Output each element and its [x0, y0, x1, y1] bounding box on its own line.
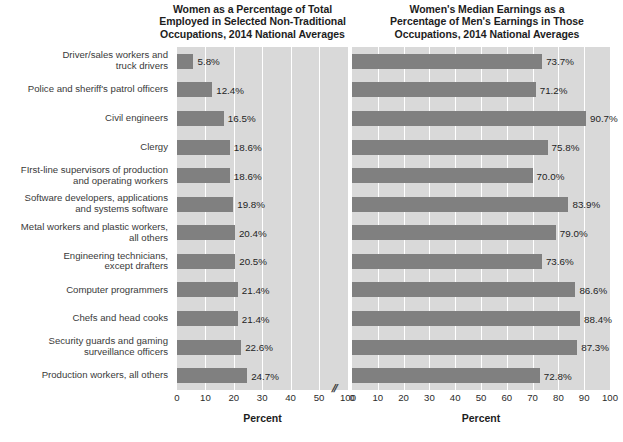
title-line: Women's Median Earnings as a: [358, 3, 616, 15]
category-label-row: Security guards and gaming surveillance …: [0, 333, 173, 362]
gridline: [404, 47, 405, 390]
bar: [352, 311, 580, 326]
bar-value-label: 21.4%: [238, 284, 270, 295]
bar-row: 71.2%: [352, 82, 610, 97]
bar-row: 20.5%: [177, 254, 348, 269]
bar-value-label: 18.6%: [230, 142, 262, 153]
bar-value-label: 20.5%: [235, 256, 267, 267]
bar-row: 5.8%: [177, 54, 348, 69]
bar-row: 18.6%: [177, 140, 348, 155]
gridline: [584, 47, 585, 390]
category-label: FIrst-line supervisors of production and…: [21, 165, 168, 187]
bar: [352, 197, 568, 212]
bar-row: 20.4%: [177, 225, 348, 240]
axis-tick-label: 0: [349, 392, 354, 403]
gridline: [378, 47, 379, 390]
axis-tick-label: 40: [285, 392, 296, 403]
category-label-row: Software developers, applications and sy…: [0, 190, 173, 219]
bar: [352, 282, 575, 297]
bar: [177, 340, 241, 355]
axis-tick-label: 50: [476, 392, 487, 403]
category-label: Metal workers and plastic workers, all o…: [21, 222, 168, 244]
axis-tick-label: 30: [424, 392, 435, 403]
bar-value-label: 75.8%: [548, 142, 580, 153]
bar-value-label: 73.7%: [542, 56, 574, 67]
category-label-row: Metal workers and plastic workers, all o…: [0, 219, 173, 248]
bar-row: 24.7%: [177, 368, 348, 383]
bar-row: 70.0%: [352, 168, 610, 183]
bar: [352, 54, 542, 69]
bar: [352, 225, 556, 240]
title-line: Occupations, 2014 National Averages: [150, 28, 355, 40]
bar: [177, 140, 230, 155]
gridline: [262, 47, 263, 390]
bar-value-label: 5.8%: [193, 56, 219, 67]
axis-tick-label: 20: [398, 392, 409, 403]
axis-tick-label: 50: [314, 392, 325, 403]
bar-value-label: 86.6%: [575, 284, 607, 295]
bar-row: 86.6%: [352, 282, 610, 297]
bar: [352, 254, 542, 269]
category-label-row: Police and sheriff's patrol officers: [0, 76, 173, 105]
axis-tick-label: 0: [174, 392, 179, 403]
bar: [352, 368, 540, 383]
bar-row: 88.4%: [352, 311, 610, 326]
axis-tick-label: 40: [450, 392, 461, 403]
gridline: [507, 47, 508, 390]
bar-value-label: 71.2%: [536, 84, 568, 95]
bar-value-label: 83.9%: [568, 199, 600, 210]
title-line: Occupations, 2014 National Averages: [358, 28, 616, 40]
axis-tick-label: 10: [200, 392, 211, 403]
title-line: Percentage of Men's Earnings in Those: [358, 15, 616, 27]
gridline: [610, 47, 611, 390]
bar: [177, 311, 238, 326]
chart-title-left: Women as a Percentage of TotalEmployed i…: [150, 3, 355, 40]
bar-value-label: 24.7%: [247, 370, 279, 381]
category-label: Civil engineers: [105, 113, 168, 124]
category-label-row: Driver/sales workers and truck drivers: [0, 47, 173, 76]
gridline: [319, 47, 320, 390]
bar-row: 72.8%: [352, 368, 610, 383]
axis-tick-label: 20: [228, 392, 239, 403]
category-label: Computer programmers: [66, 285, 168, 296]
x-axis-left: 01020304050100//: [177, 392, 348, 406]
bar-value-label: 20.4%: [235, 227, 267, 238]
bar-row: 22.6%: [177, 340, 348, 355]
bar: [177, 197, 233, 212]
category-label-column: Driver/sales workers and truck driversPo…: [0, 47, 173, 390]
bar-value-label: 90.7%: [586, 113, 618, 124]
bar: [352, 111, 586, 126]
bar-value-label: 88.4%: [580, 313, 612, 324]
axis-tick-label: 60: [501, 392, 512, 403]
category-label: Security guards and gaming surveillance …: [49, 336, 168, 358]
category-label: Driver/sales workers and truck drivers: [62, 50, 168, 72]
bar: [177, 111, 224, 126]
bar: [177, 254, 235, 269]
bar: [352, 340, 577, 355]
plot-area-left: 5.8%12.4%16.5%18.6%18.6%19.8%20.4%20.5%2…: [177, 47, 348, 390]
category-label-row: Clergy: [0, 133, 173, 162]
bar-value-label: 72.8%: [540, 370, 572, 381]
category-label-row: Chefs and head cooks: [0, 304, 173, 333]
bar-row: 90.7%: [352, 111, 610, 126]
chart-page: Women as a Percentage of TotalEmployed i…: [0, 0, 623, 442]
bar-row: 19.8%: [177, 197, 348, 212]
category-label: Software developers, applications and sy…: [25, 193, 168, 215]
axis-tick-label: 90: [579, 392, 590, 403]
axis-tick-label: 10: [372, 392, 383, 403]
bar-value-label: 19.8%: [233, 199, 265, 210]
gridline: [481, 47, 482, 390]
bar: [352, 82, 536, 97]
axis-tick-label: 100: [602, 392, 618, 403]
axis-tick-label: 80: [553, 392, 564, 403]
bar-row: 12.4%: [177, 82, 348, 97]
bar: [177, 282, 238, 297]
category-label-row: FIrst-line supervisors of production and…: [0, 161, 173, 190]
bar-row: 83.9%: [352, 197, 610, 212]
bar-value-label: 70.0%: [533, 170, 565, 181]
x-axis-title-right: Percent: [352, 412, 610, 424]
gridline: [291, 47, 292, 390]
bar-value-label: 73.6%: [542, 256, 574, 267]
gridline: [429, 47, 430, 390]
bar: [352, 168, 533, 183]
